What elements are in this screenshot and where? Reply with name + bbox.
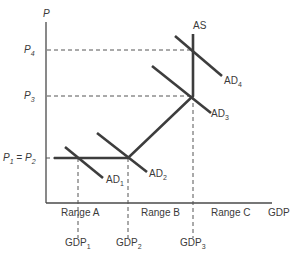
y-axis-label: P xyxy=(43,8,50,19)
as-ad-diagram: P P4 P3 P1 = P2 AS AD1 AD2 AD3 AD4 Range… xyxy=(0,0,304,259)
x-axis-label: GDP xyxy=(268,207,290,218)
ad2-label: AD2 xyxy=(149,168,167,181)
ad4-curve xyxy=(175,36,222,76)
ad2-curve xyxy=(97,133,147,172)
gdp1-label: GDP1 xyxy=(65,237,91,250)
gdp2-label: GDP2 xyxy=(116,237,142,250)
ad1-curve xyxy=(65,147,103,178)
as-label: AS xyxy=(193,20,207,31)
price-label-p4: P4 xyxy=(24,44,35,57)
price-label-p1-p2: P1 = P2 xyxy=(3,152,36,165)
range-b-label: Range B xyxy=(141,207,180,218)
ad1-label: AD1 xyxy=(106,174,124,187)
gdp3-label: GDP3 xyxy=(180,237,206,250)
as-curve xyxy=(54,34,193,158)
ad3-label: AD3 xyxy=(211,108,229,121)
ad4-label: AD4 xyxy=(224,75,242,88)
price-label-p3: P3 xyxy=(24,90,35,103)
range-a-label: Range A xyxy=(61,207,100,218)
range-c-label: Range C xyxy=(211,207,250,218)
